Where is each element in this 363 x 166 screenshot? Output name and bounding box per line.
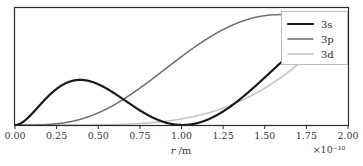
- legend-label-3d[interactable]: 3d: [321, 49, 334, 60]
- x-axis-tick-labels: 0.000.250.500.751.001.251.501.752.00: [4, 130, 358, 141]
- x-tick-label: 2.00: [337, 130, 358, 141]
- legend-label-3s[interactable]: 3s: [321, 19, 333, 30]
- legend[interactable]: 3s3p3d: [282, 12, 348, 65]
- plot-area: 0.000.250.500.751.001.251.501.752.00 r/m…: [0, 0, 363, 166]
- x-axis-label: r/m: [171, 145, 192, 156]
- x-tick-label: 0.00: [4, 130, 25, 141]
- x-tick-label: 1.00: [171, 130, 192, 141]
- x-axis-exponent-label: ×10⁻¹⁰: [313, 144, 346, 155]
- x-tick-label: 0.75: [129, 130, 150, 141]
- x-tick-label: 1.50: [254, 130, 275, 141]
- x-tick-label: 1.25: [213, 130, 234, 141]
- legend-label-3p[interactable]: 3p: [321, 34, 334, 45]
- x-tick-label: 0.25: [46, 130, 67, 141]
- x-tick-label: 0.50: [88, 130, 109, 141]
- radial-distribution-figure: 0.000.250.500.751.001.251.501.752.00 r/m…: [0, 0, 363, 166]
- x-tick-label: 1.75: [296, 130, 317, 141]
- legend-box: [282, 12, 348, 65]
